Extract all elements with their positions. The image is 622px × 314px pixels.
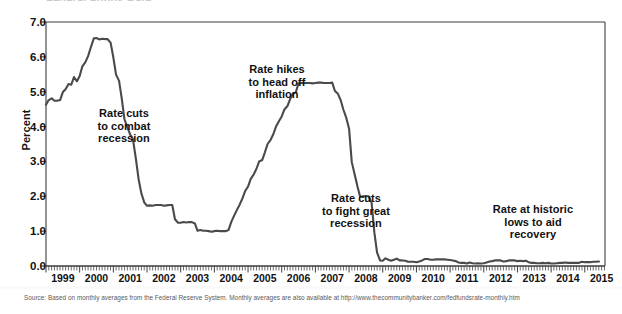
x-tick-label: 2005 <box>253 272 276 284</box>
x-tick-label: 2011 <box>456 272 479 284</box>
y-tick-label: 2.0 <box>12 191 46 201</box>
x-tick-label: 2007 <box>321 272 344 284</box>
chart-plot-area <box>0 0 622 314</box>
y-tick-label: 0.0 <box>12 261 46 271</box>
annotation-rate-cuts-recession: Rate cuts to combat recession <box>76 107 172 145</box>
y-tick-label: 7.0 <box>12 17 46 27</box>
y-tick-label: 6.0 <box>12 52 46 62</box>
annotation-historic-lows: Rate at historic lows to aid recovery <box>478 203 588 241</box>
x-tick-label: 2013 <box>523 272 546 284</box>
x-tick-label: 2000 <box>85 272 108 284</box>
x-tick-label: 2015 <box>590 272 613 284</box>
x-tick-label: 2001 <box>118 272 141 284</box>
source-note: Source: Based on monthly averages from t… <box>24 294 520 301</box>
annotation-rate-cuts-great-recession: Rate cuts to fight great recession <box>304 192 408 230</box>
x-tick-label: 1999 <box>51 272 74 284</box>
x-tick-label: 2012 <box>489 272 512 284</box>
scan-artifact-band <box>0 286 622 289</box>
x-tick-label: 2014 <box>556 272 579 284</box>
x-tick-label: 2010 <box>422 272 445 284</box>
x-tick-label: 2006 <box>287 272 310 284</box>
fed-funds-rate-chart-figure: Federal Funds Rate 0.01.02.03.04.05.06.0… <box>0 0 622 314</box>
y-axis-label: Percent <box>20 95 32 165</box>
x-tick-label: 2002 <box>152 272 175 284</box>
x-tick-label: 2008 <box>354 272 377 284</box>
x-tick-label: 2009 <box>388 272 411 284</box>
x-tick-label: 2004 <box>220 272 243 284</box>
y-tick-label: 1.0 <box>12 226 46 236</box>
x-tick-label: 2003 <box>186 272 209 284</box>
annotation-rate-hikes-inflation: Rate hikes to head off inflation <box>231 63 323 101</box>
